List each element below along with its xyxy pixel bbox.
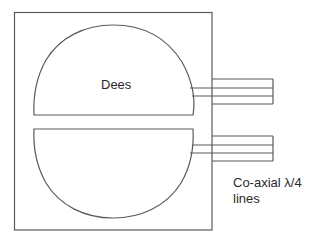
coaxial-label-line-1: Co-axial λ/4 <box>233 175 302 191</box>
dees-label: Dees <box>101 77 131 93</box>
coaxial-lines-label: Co-axial λ/4 lines <box>233 175 302 207</box>
enclosure-box <box>15 13 213 231</box>
lower-dee <box>34 129 193 218</box>
upper-coaxial-line <box>190 79 273 104</box>
lower-coaxial-line <box>190 136 273 161</box>
coaxial-label-line-2: lines <box>233 191 302 207</box>
upper-dee <box>34 25 194 115</box>
